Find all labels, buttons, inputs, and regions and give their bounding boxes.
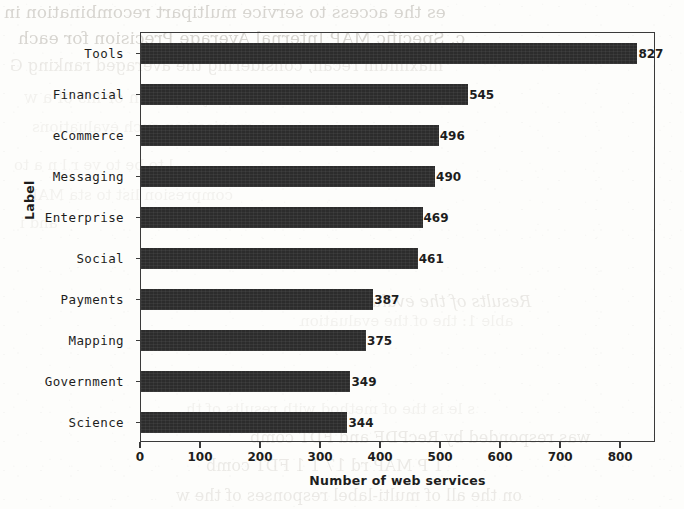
x-axis-tick-mark: [199, 442, 201, 448]
y-axis-tick-label-government: Government: [45, 374, 124, 389]
x-axis-tick-label-100: 100: [187, 450, 212, 464]
y-axis-tick-label-mapping: Mapping: [69, 333, 124, 348]
y-axis-tick-mark: [136, 340, 141, 342]
bar-value-label: 490: [436, 171, 461, 183]
x-axis-tick-mark: [379, 442, 381, 448]
y-axis-tick-mark: [136, 53, 141, 55]
x-axis-tick-mark: [139, 442, 141, 448]
y-axis-tick-label-science: Science: [69, 415, 124, 430]
x-axis-tick-mark: [499, 442, 501, 448]
y-axis-tick-label-social: Social: [76, 251, 124, 266]
y-axis-tick-mark: [136, 299, 141, 301]
bar: [141, 371, 350, 392]
y-axis-tick-label-messaging: Messaging: [53, 169, 124, 184]
bar-value-label: 387: [374, 294, 399, 306]
y-axis-tick-label-financial: Financial: [53, 87, 124, 102]
y-axis-tick-mark: [136, 176, 141, 178]
bar: [141, 289, 373, 310]
x-axis-tick-mark: [559, 442, 561, 448]
bar: [141, 207, 423, 228]
bar: [141, 84, 468, 105]
bar-value-label: 545: [469, 89, 494, 101]
bar: [141, 248, 418, 269]
bar: [141, 125, 439, 146]
x-axis-tick-label-400: 400: [368, 450, 393, 464]
x-axis-tick-mark: [439, 442, 441, 448]
y-axis-tick-mark: [136, 135, 141, 137]
bar-value-label: 827: [638, 48, 663, 60]
x-axis-tick-mark: [619, 442, 621, 448]
x-axis-tick-label-0: 0: [136, 450, 144, 464]
x-axis-tick-label-700: 700: [548, 450, 573, 464]
y-axis-tick-label-tools: Tools: [84, 46, 124, 61]
bar: [141, 166, 435, 187]
bar-value-label: 344: [348, 417, 373, 429]
y-axis-tick-mark: [136, 422, 141, 424]
bar: [141, 330, 366, 351]
x-axis-tick-mark: [319, 442, 321, 448]
y-axis-tick-mark: [136, 258, 141, 260]
x-axis-tick-mark: [259, 442, 261, 448]
bar: [141, 412, 347, 433]
plot-area-frame: 827545496490469461387375349344: [140, 32, 655, 442]
x-axis-tick-label-300: 300: [308, 450, 333, 464]
x-axis-ticks: 0100200300400500600700800: [140, 442, 655, 472]
y-axis-tick-labels: ToolsFinancialeCommerceMessagingEnterpri…: [0, 32, 134, 442]
x-axis-tick-label-600: 600: [488, 450, 513, 464]
y-axis-tick-mark: [136, 381, 141, 383]
x-axis-title: Number of web services: [140, 473, 655, 488]
bar: [141, 43, 637, 64]
y-axis-tick-label-enterprise: Enterprise: [45, 210, 124, 225]
bar-value-label: 349: [351, 376, 376, 388]
x-axis-tick-label-800: 800: [608, 450, 633, 464]
x-axis-tick-label-500: 500: [428, 450, 453, 464]
y-axis-tick-mark: [136, 94, 141, 96]
bar-chart-figure: Label ToolsFinancialeCommerceMessagingEn…: [0, 0, 684, 509]
y-axis-tick-label-payments: Payments: [61, 292, 124, 307]
bar-value-label: 496: [440, 130, 465, 142]
bar-value-label: 461: [419, 253, 444, 265]
bar-value-label: 469: [424, 212, 449, 224]
x-axis-tick-label-200: 200: [248, 450, 273, 464]
bar-value-label: 375: [367, 335, 392, 347]
y-axis-tick-mark: [136, 217, 141, 219]
y-axis-tick-label-ecommerce: eCommerce: [53, 128, 124, 143]
